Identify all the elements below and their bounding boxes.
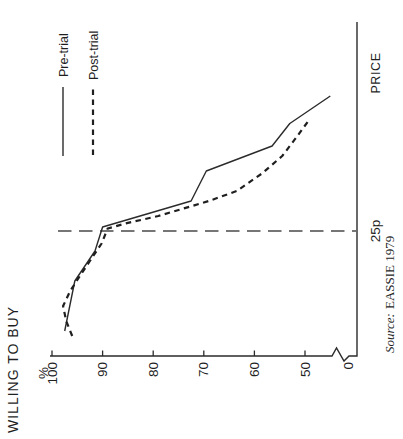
legend-label-pre-trial: Pre-trial (57, 33, 71, 77)
source-note: Source:EASSIE 1979 (382, 236, 397, 353)
y-tick-label: 90 (95, 362, 110, 377)
legend-label-post-trial: Post-trial (87, 31, 101, 80)
source-text: EASSIE 1979 (382, 236, 397, 309)
legend: Pre-trial Post-trial (57, 31, 101, 156)
figure-canvas: 10090807060500 WILLING TO BUY % PRICE 25… (0, 0, 403, 439)
y-tick-label: 50 (298, 362, 313, 377)
x-axis-title: PRICE (369, 52, 383, 93)
series-pre-trial (65, 96, 331, 331)
chart-svg: 10090807060500 WILLING TO BUY % PRICE 25… (0, 0, 403, 439)
series-post-trial (63, 119, 310, 337)
y-axis-unit-label: % (36, 367, 51, 379)
y-tick-label: 80 (146, 362, 161, 377)
reference-price-label: 25p (368, 220, 383, 243)
y-tick-label: 70 (196, 362, 211, 377)
source-prefix: Source: (382, 313, 397, 353)
y-tick-label: 60 (247, 362, 262, 377)
y-zero-label: 0 (341, 362, 356, 370)
rotated-chart-group: 10090807060500 WILLING TO BUY % PRICE 25… (5, 22, 397, 433)
y-axis-title: WILLING TO BUY (5, 306, 21, 433)
